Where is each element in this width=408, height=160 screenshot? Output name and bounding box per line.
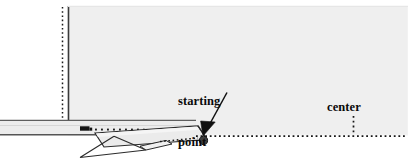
cart-block (80, 126, 90, 130)
panel-background (68, 6, 408, 135)
starting-point-label-line2: point (178, 136, 220, 150)
cart-block-nose (90, 128, 93, 131)
starting-point-label-line1: starting (178, 95, 220, 109)
starting-point-label: starting point (178, 68, 220, 160)
center-label: center (327, 101, 361, 115)
physics-ramp-diagram: starting point center (0, 0, 408, 160)
